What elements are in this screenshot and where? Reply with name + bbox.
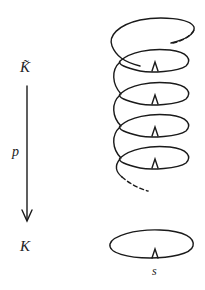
- base-point-marker: [152, 249, 158, 258]
- base-circle-loop: [110, 230, 193, 258]
- basepoint-marker-2: [152, 95, 158, 104]
- helix-connector-1: [114, 62, 121, 94]
- base-space-label: K: [19, 238, 31, 254]
- helix-connector-3: [114, 127, 121, 158]
- helix-loop-1: [119, 49, 188, 71]
- helix-bottom-dashed-tail: [122, 177, 148, 191]
- basepoint-marker-1: [152, 62, 158, 71]
- helix-loop-2: [119, 82, 188, 104]
- projection-label: p: [11, 144, 19, 159]
- base-circle: s: [110, 230, 193, 278]
- covering-space-diagram: K̃ p K s: [0, 0, 205, 290]
- basepoint-marker-3: [152, 127, 158, 136]
- base-point-label: s: [152, 264, 157, 278]
- cover-space-label: K̃: [19, 59, 31, 75]
- helix-connector-2: [114, 95, 121, 126]
- basepoint-marker-4: [152, 159, 158, 168]
- helix: [111, 18, 194, 191]
- helix-loop-3: [119, 114, 188, 136]
- helix-loop-4: [119, 146, 188, 168]
